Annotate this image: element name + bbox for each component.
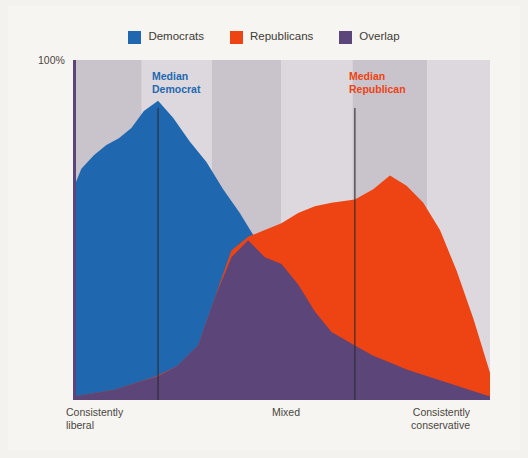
square-swatch-icon-republicans [230,31,243,44]
square-swatch-icon-democrats [128,31,141,44]
chart-legend: Democrats Republicans Overlap [0,26,528,48]
square-swatch-icon-overlap [339,31,352,44]
median-republican-line-1: Median [349,70,406,83]
legend-item-republicans[interactable]: Republicans [230,31,313,44]
legend-label-democrats: Democrats [148,31,204,43]
median-democrat-line-1: Median [152,70,200,83]
x-axis-label-middle: Mixed [272,406,300,419]
x-axis-label-left-line-1: Consistently [66,406,123,419]
median-democrat-annotation: Median Democrat [152,70,200,96]
legend-label-overlap: Overlap [359,31,399,43]
legend-item-overlap[interactable]: Overlap [339,31,399,44]
x-axis-label-right-line-2: conservative [411,419,470,432]
median-republican-line-2: Republican [349,83,406,96]
chart-plot-area [73,60,490,400]
distribution-area-chart [73,60,490,400]
y-axis-max-label: 100% [38,54,65,66]
legend-label-republicans: Republicans [250,31,313,43]
x-axis-label-left: Consistently liberal [66,406,123,433]
left-edge-rule [73,60,76,400]
median-republican-annotation: Median Republican [349,70,406,96]
x-axis-label-right-line-1: Consistently [411,406,470,419]
legend-item-democrats[interactable]: Democrats [128,31,204,44]
x-axis-label-right: Consistently conservative [411,406,470,433]
median-democrat-line-2: Democrat [152,83,200,96]
x-axis-label-left-line-2: liberal [66,419,123,432]
